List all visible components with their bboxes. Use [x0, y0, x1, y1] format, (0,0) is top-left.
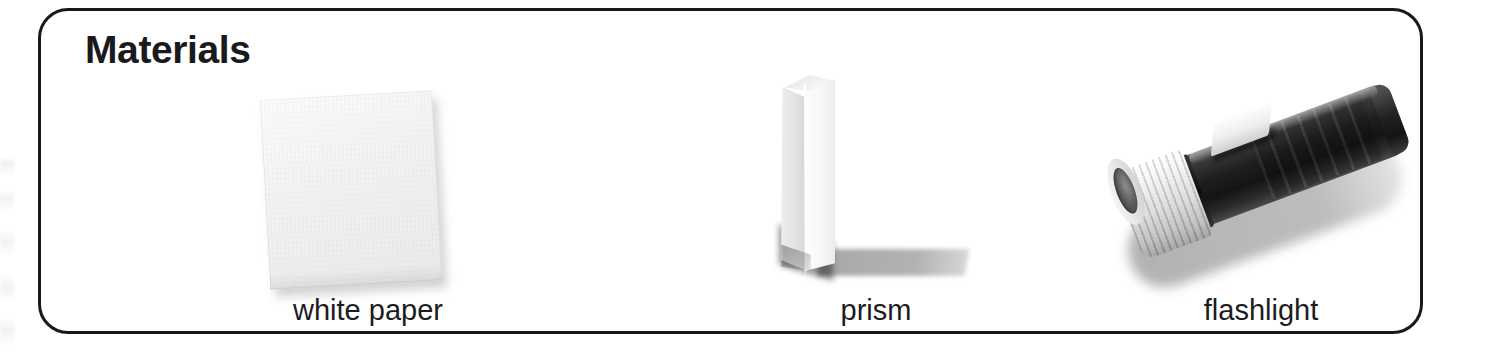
- prism-edge-highlight: [804, 83, 806, 273]
- prism-ground-shadow: [817, 249, 969, 276]
- prism-body: [781, 73, 839, 271]
- page-scan-artifacts: [0, 150, 14, 355]
- material-label-white-paper: white paper: [223, 294, 513, 327]
- flashlight-image: [1096, 73, 1426, 288]
- materials-panel: Materials white paper prism: [38, 8, 1423, 334]
- prism-image: [731, 73, 1021, 288]
- material-label-prism: prism: [731, 294, 1021, 327]
- material-label-flashlight: flashlight: [1096, 294, 1426, 327]
- material-item-flashlight: flashlight: [1096, 73, 1426, 333]
- white-paper-sheet: [260, 90, 442, 289]
- prism-right-face: [805, 79, 835, 271]
- page-title: Materials: [85, 28, 250, 72]
- flashlight-body-assembly: [1097, 47, 1431, 293]
- material-item-white-paper: white paper: [223, 73, 513, 333]
- white-paper-image: [223, 73, 513, 288]
- material-item-prism: prism: [731, 73, 1021, 333]
- white-paper-texture: [260, 90, 442, 289]
